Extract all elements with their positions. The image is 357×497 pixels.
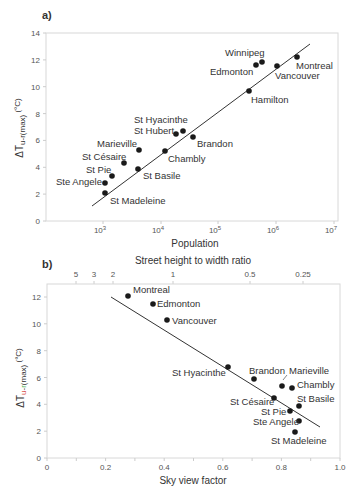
data-point [162, 148, 168, 154]
x-tick-label: 105 [209, 225, 222, 235]
panel-a-plot-frame [46, 33, 338, 221]
panel-a-y-axis: 0 2 4 6 8 10 12 14 [31, 29, 46, 226]
y-tick-label: 6 [36, 136, 41, 145]
data-point [102, 180, 108, 186]
point-label: St Basile [297, 393, 335, 404]
point-label: Marieville [289, 365, 329, 376]
data-point [253, 62, 259, 68]
data-point [274, 63, 280, 69]
point-label: Edmonton [157, 298, 200, 309]
data-point [150, 301, 156, 307]
x-tick-label: 103 [94, 225, 107, 235]
y-tick-label: 12 [32, 293, 41, 302]
y-tick-label: 8 [37, 347, 42, 356]
data-point [180, 128, 186, 134]
point-label: St Madeleine [271, 435, 326, 446]
y-tick-label: 4 [36, 163, 41, 172]
point-label: Montreal [133, 284, 170, 295]
y-tick-label: 8 [36, 110, 41, 119]
x-tick-label: 1.0 [334, 463, 346, 472]
panel-a-point-labels: Winnipeg Edmonton Vancouver Montreal Ham… [56, 47, 333, 206]
point-label: Winnipeg [225, 47, 265, 58]
top-tick-label: 2 [111, 270, 116, 279]
top-tick-label: 5 [74, 270, 79, 279]
y-tick-label: 6 [37, 374, 42, 383]
point-label: Hamilton [251, 94, 289, 105]
panel-b-y-axis: 0 2 4 6 8 10 12 [32, 293, 47, 463]
data-point [164, 317, 170, 323]
point-label: St Hubert [134, 125, 174, 136]
x-tick-label: 0.4 [159, 463, 171, 472]
x-tick-label: 0.8 [276, 463, 288, 472]
data-point [287, 408, 293, 414]
y-tick-label: 14 [31, 29, 40, 38]
panel-a-y-axis-title: ΔTu-r(max) (°C) [13, 98, 27, 158]
data-point [289, 385, 295, 391]
figure: a) 0 2 4 6 8 10 12 14 ΔTu-r(max) (°C) [0, 0, 357, 497]
panel-a-x-axis: 103 104 105 106 107 [94, 221, 338, 235]
data-point [294, 54, 300, 60]
point-label: Ste Angele [56, 176, 102, 187]
panel-b-top-axis-title: Street height to width ratio [135, 255, 252, 266]
data-point [225, 364, 231, 370]
panel-b-top-axis: 5 3 2 1 0.5 0.25 [74, 270, 312, 284]
y-tick-label: 2 [37, 427, 42, 436]
data-point [251, 376, 257, 382]
x-tick-label: 107 [325, 225, 338, 235]
point-label: Chambly [168, 153, 206, 164]
point-label: Montreal [296, 60, 333, 71]
panel-a-label: a) [42, 9, 52, 21]
point-label: St Hyacinthe [172, 367, 226, 378]
y-tick-label: 10 [31, 83, 40, 92]
point-label: St Césaire [82, 151, 126, 162]
top-tick-label: 3 [92, 270, 97, 279]
y-tick-label: 4 [37, 400, 42, 409]
top-tick-label: 0.5 [244, 270, 256, 279]
data-point [279, 383, 285, 389]
point-label: Brandon [249, 365, 285, 376]
y-tick-label: 12 [31, 56, 40, 65]
point-label: St Pie [86, 164, 111, 175]
x-tick-label: 0 [45, 463, 50, 472]
point-label: Chambly [297, 379, 335, 390]
point-label: Vancouver [275, 70, 320, 81]
panel-b-y-axis-title: ΔTu-r(max) (°C) [14, 348, 28, 408]
point-label: Ste Angele [253, 416, 299, 427]
top-tick-label: 0.25 [295, 270, 311, 279]
point-label: St Hyacinthe [134, 114, 188, 125]
point-label: Edmonton [210, 66, 253, 77]
panel-b: b) Street height to width ratio 5 3 2 1 … [14, 255, 346, 486]
panel-b-x-axis-title: Sky view factor [159, 475, 227, 486]
x-tick-label: 106 [267, 225, 280, 235]
top-tick-label: 1 [171, 270, 176, 279]
data-point [246, 88, 252, 94]
y-tick-label: 10 [32, 320, 41, 329]
x-tick-label: 0.6 [217, 463, 229, 472]
data-point [292, 429, 298, 435]
data-point [259, 59, 265, 65]
x-tick-label: 104 [152, 225, 165, 235]
point-label: Marieville [97, 138, 137, 149]
panel-a-x-axis-title: Population [171, 238, 218, 249]
point-label: St Basile [143, 170, 181, 181]
panel-b-point-labels: Montreal Edmonton Vancouver St Hyacinthe… [133, 284, 335, 446]
point-label: St Madeleine [110, 195, 165, 206]
x-tick-label: 0.2 [100, 463, 112, 472]
data-point [125, 293, 131, 299]
point-label: Brandon [197, 138, 233, 149]
y-tick-label: 2 [36, 190, 41, 199]
panel-b-x-axis: 0 0.2 0.4 0.6 0.8 1.0 [45, 458, 346, 472]
data-point [296, 403, 302, 409]
data-point [135, 166, 141, 172]
data-point [102, 190, 108, 196]
data-point [190, 134, 196, 140]
y-tick-label: 0 [36, 217, 41, 226]
panel-b-label: b) [42, 258, 53, 270]
point-label: Vancouver [172, 315, 217, 326]
panel-a: a) 0 2 4 6 8 10 12 14 ΔTu-r(max) (°C) [13, 9, 338, 249]
y-tick-label: 0 [37, 454, 42, 463]
